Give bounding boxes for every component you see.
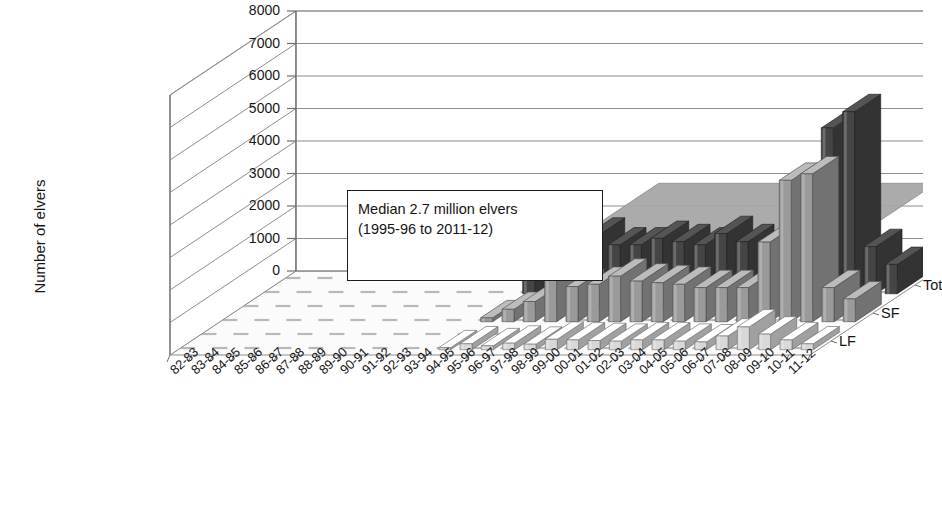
depth-label-tot: Tot: [923, 277, 942, 293]
y-tick-3000: 3000: [220, 165, 280, 181]
y-tick-8000: 8000: [220, 2, 280, 18]
y-tick-6000: 6000: [220, 67, 280, 83]
y-tick-1000: 1000: [220, 230, 280, 246]
annotation-box: Median 2.7 million elvers (1995-96 to 20…: [347, 190, 603, 281]
y-tick-5000: 5000: [220, 100, 280, 116]
y-tick-7000: 7000: [220, 35, 280, 51]
depth-label-sf: SF: [881, 305, 900, 321]
depth-label-lf: LF: [839, 333, 856, 349]
y-tick-2000: 2000: [220, 197, 280, 213]
annotation-line-1: Median 2.7 million elvers: [358, 199, 602, 219]
annotation-line-2: (1995-96 to 2011-12): [358, 219, 602, 239]
y-tick-4000: 4000: [220, 132, 280, 148]
y-tick-0: 0: [220, 262, 280, 278]
